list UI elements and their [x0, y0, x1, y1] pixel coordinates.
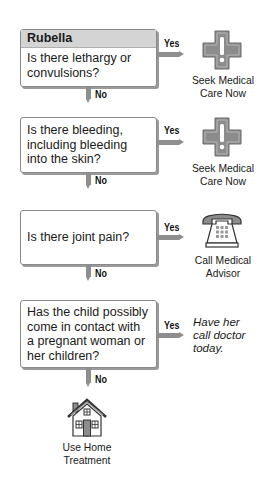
outcome-seek-care: Seek Medical Care Now	[192, 162, 255, 188]
house-icon	[67, 398, 107, 438]
outcome-line2: Advisor	[192, 267, 255, 280]
outcome-line2: Care Now	[192, 175, 255, 188]
outcome-line1: Use Home	[56, 441, 119, 454]
flowchart-title: Rubella	[21, 30, 156, 48]
outcome-line1: Seek Medical	[192, 162, 255, 175]
question-box-joint-pain: Is there joint pain?	[20, 210, 157, 265]
outcome-line2: Treatment	[56, 454, 119, 467]
yes-arrow	[157, 52, 179, 57]
yes-label: Yes	[164, 319, 179, 331]
yes-arrow	[157, 235, 179, 240]
yes-label: Yes	[164, 37, 179, 49]
medical-cross-exclamation-icon	[202, 117, 242, 157]
note-line3: today.	[193, 342, 245, 355]
outcome-line1: Call Medical	[192, 254, 255, 267]
no-arrow	[86, 265, 91, 277]
note-line2: call doctor	[193, 329, 245, 342]
yes-arrow	[157, 333, 179, 338]
no-arrow	[86, 87, 91, 99]
no-label: No	[95, 373, 107, 385]
question-text: Is there joint pain?	[21, 226, 135, 249]
yes-label: Yes	[164, 221, 179, 233]
outcome-call-advisor: Call Medical Advisor	[192, 254, 255, 280]
question-text: Is there bleeding, including bleeding in…	[21, 118, 156, 171]
question-box-pregnant-contact: Has the child possibly come in contact w…	[20, 300, 157, 368]
outcome-home-treatment: Use Home Treatment	[56, 441, 119, 467]
no-label: No	[95, 174, 107, 186]
no-arrow	[86, 368, 91, 383]
outcome-line2: Care Now	[192, 87, 255, 100]
outcome-seek-care: Seek Medical Care Now	[192, 74, 255, 100]
question-box-lethargy: Rubella Is there lethargy or convulsions…	[20, 29, 157, 87]
question-text: Has the child possibly come in contact w…	[21, 301, 156, 367]
question-box-bleeding: Is there bleeding, including bleeding in…	[20, 117, 157, 173]
call-doctor-note: Have her call doctor today.	[193, 316, 245, 355]
outcome-line1: Seek Medical	[192, 74, 255, 87]
question-text: Is there lethargy or convulsions?	[21, 48, 156, 84]
no-label: No	[95, 267, 107, 279]
telephone-icon	[200, 209, 244, 249]
note-line1: Have her	[193, 316, 245, 329]
medical-cross-exclamation-icon	[202, 30, 242, 70]
no-arrow	[86, 173, 91, 185]
yes-label: Yes	[164, 124, 179, 136]
yes-arrow	[157, 140, 179, 145]
no-label: No	[95, 88, 107, 100]
